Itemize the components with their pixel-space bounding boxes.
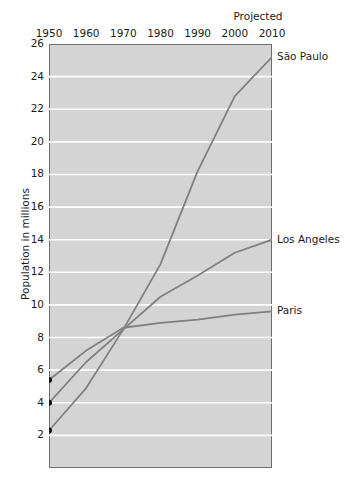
y-tick-22: 22 [18,102,44,114]
y-tick-8: 8 [18,331,44,343]
x-tick-2010: 2010 [252,27,292,39]
x-tick-1990: 1990 [178,27,218,39]
x-tick-2000: 2000 [215,27,255,39]
y-tick-2: 2 [18,428,44,440]
plot-svg [49,44,272,468]
x-tick-1960: 1960 [66,27,106,39]
series-label-paris: Paris [277,304,302,316]
y-tick-24: 24 [18,70,44,82]
projected-annotation: Projected [218,10,298,22]
x-tick-1980: 1980 [141,27,181,39]
y-tick-20: 20 [18,135,44,147]
series-line-são-paulo [49,57,272,430]
y-tick-26: 26 [18,37,44,49]
y-axis-title: Population in millions [19,174,31,314]
series-label-los-angeles: Los Angeles [277,233,340,245]
y-tick-4: 4 [18,396,44,408]
population-line-chart: Projected 1950196019701980199020002010 2… [0,0,345,487]
x-tick-1970: 1970 [103,27,143,39]
series-label-são-paulo: São Paulo [277,50,328,62]
y-tick-6: 6 [18,363,44,375]
